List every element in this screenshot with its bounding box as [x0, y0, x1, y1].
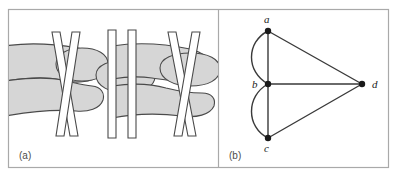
node-c — [265, 135, 271, 141]
panel-b-caption: (b) — [229, 150, 241, 161]
figure-root: (a) — [0, 0, 397, 177]
node-d-label: d — [372, 78, 378, 90]
panel-a-caption: (a) — [19, 150, 31, 161]
node-a-label: a — [264, 13, 270, 25]
strip-4 — [128, 30, 136, 138]
strip-3 — [108, 30, 116, 138]
node-c-label: c — [264, 142, 269, 154]
node-b — [265, 81, 271, 87]
figure-svg: (a) — [0, 0, 397, 177]
node-a — [265, 28, 271, 34]
node-b-label: b — [252, 78, 258, 90]
node-d — [359, 81, 365, 87]
